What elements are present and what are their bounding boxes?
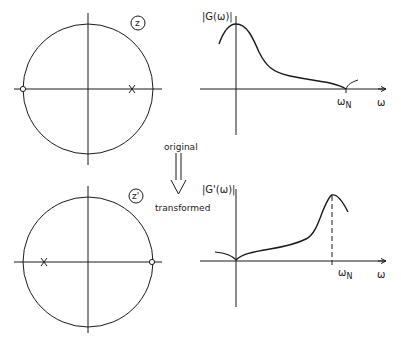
magnitude-plot-top [200,16,386,135]
zero-icon-bottom [149,259,154,264]
magnitude-curve-extension-bottom [215,252,236,260]
zero-icon-top [20,86,25,91]
magnitude-curve-top [219,24,346,89]
plane-label-top: z [135,18,140,28]
diagram-canvas [0,0,401,345]
wn-sub-bottom: N [346,272,352,281]
axis-label-top: ω [377,98,385,108]
magnitude-plot-bottom [200,189,386,307]
z-plane-top [14,13,162,165]
magnitude-curve-bottom [236,195,348,260]
arrow-label-transformed: transformed [155,203,210,213]
plane-label-bottom: z' [132,191,139,201]
axis-arrow-icon-bottom [378,259,386,264]
axis-label-bottom: ω [377,270,385,280]
arrow-label-original: original [164,142,198,152]
wn-sub-top: N [345,101,351,110]
z-prime-plane-bottom [14,186,162,333]
axis-arrow-icon-top [378,87,386,92]
magnitude-curve-extension-top [346,80,358,89]
magnitude-label-top: |G(ω)| [202,12,233,22]
wn-label-bottom: ωN [338,268,352,282]
wn-label-top: ωN [337,97,351,111]
transform-arrow-icon [171,153,186,194]
magnitude-label-bottom: |G'(ω)| [202,185,235,195]
